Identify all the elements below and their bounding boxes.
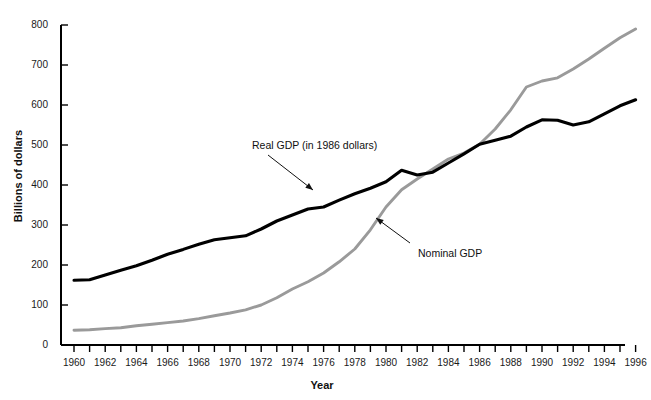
x-axis-tick-label: 1996 — [616, 358, 651, 368]
annotation-nominal-gdp: Nominal GDP — [418, 248, 482, 259]
y-axis-tick-label: 500 — [0, 140, 48, 150]
chart-axes — [61, 25, 636, 352]
arrow-real-gdp-head — [305, 183, 313, 190]
y-axis-tick-label: 100 — [0, 300, 48, 310]
chart-series — [74, 29, 636, 330]
annotation-real-gdp: Real GDP (in 1986 dollars) — [252, 140, 377, 151]
y-axis-tick-label: 400 — [0, 180, 48, 190]
y-axis-tick-label: 600 — [0, 100, 48, 110]
series-line-nominal-gdp — [74, 29, 636, 330]
y-axis-tick-label: 0 — [0, 340, 48, 350]
series-line-real-gdp — [74, 100, 636, 280]
y-axis-tick-label: 300 — [0, 220, 48, 230]
y-axis-tick-label: 200 — [0, 260, 48, 270]
y-axis-tick-label: 800 — [0, 20, 48, 30]
arrow-real-gdp — [268, 155, 313, 190]
x-axis-title: Year — [0, 379, 644, 391]
y-axis-tick-label: 700 — [0, 60, 48, 70]
y-axis-title: Billions of dollars — [12, 111, 24, 241]
